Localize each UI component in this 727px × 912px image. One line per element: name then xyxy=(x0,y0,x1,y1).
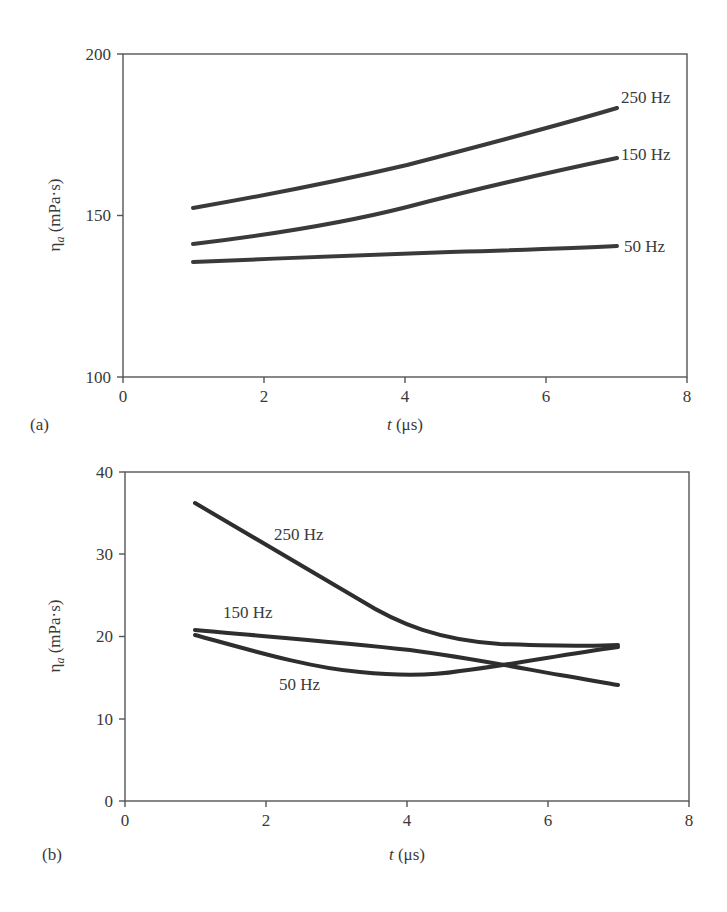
panel-b-ytick-20: 20 xyxy=(96,627,113,646)
panel-b-x-axis-title: t (μs) xyxy=(389,845,425,864)
panel-b-plot-frame xyxy=(125,472,689,801)
figure: 200 150 100 0 2 4 6 8 (a) t (μs) ηa (mPa… xyxy=(0,0,727,912)
panel-a-ytick-200: 200 xyxy=(86,45,112,64)
panel-b-xtick-8: 8 xyxy=(685,811,694,830)
panel-a-x-unit: (μs) xyxy=(392,415,423,434)
panel-b-label-250hz: 250 Hz xyxy=(274,525,324,544)
panel-a-xtick-4: 4 xyxy=(401,387,410,406)
panel-a-y-axis-title: ηa (mPa·s) xyxy=(45,179,67,252)
panel-a-label-150hz: 150 Hz xyxy=(621,145,671,164)
panel-a-label: (a) xyxy=(30,415,49,434)
panel-b-x-ticks xyxy=(125,801,689,807)
panel-b-ytick-0: 0 xyxy=(105,792,114,811)
panel-b-curve-250hz xyxy=(195,503,618,646)
panel-a-x-ticks xyxy=(123,377,687,383)
panel-a-ytick-100: 100 xyxy=(86,368,112,387)
panel-b-y-ticks xyxy=(119,472,125,801)
panel-b: 40 30 20 10 0 0 2 4 6 8 (b) t (μs) ηa (m… xyxy=(42,463,693,864)
panel-b-label-150hz: 150 Hz xyxy=(223,603,273,622)
panel-b-xtick-4: 4 xyxy=(403,811,412,830)
panel-a-y-ticks xyxy=(117,54,123,377)
panel-a-xtick-8: 8 xyxy=(683,387,692,406)
panel-a-plot-frame xyxy=(123,54,687,377)
panel-b-curve-50hz xyxy=(195,635,618,675)
panel-a-y-var: η xyxy=(45,243,64,252)
panel-a-xtick-0: 0 xyxy=(119,387,128,406)
panel-b-y-unit: (mPa·s) xyxy=(45,600,64,658)
panel-a-x-axis-title: t (μs) xyxy=(387,415,423,434)
panel-b-ytick-40: 40 xyxy=(96,463,113,482)
panel-b-ytick-10: 10 xyxy=(96,710,113,729)
panel-a-curve-50hz xyxy=(193,246,617,262)
panel-b-xtick-0: 0 xyxy=(121,811,130,830)
panel-a-label-250hz: 250 Hz xyxy=(621,88,671,107)
panel-a-label-50hz: 50 Hz xyxy=(624,237,666,256)
panel-b-ytick-30: 30 xyxy=(96,545,113,564)
panel-b-y-axis-title: ηa (mPa·s) xyxy=(45,600,67,673)
panel-a-curve-150hz xyxy=(193,158,617,244)
panel-a-curve-250hz xyxy=(193,108,617,208)
panel-a-xtick-2: 2 xyxy=(260,387,269,406)
panel-a: 200 150 100 0 2 4 6 8 (a) t (μs) ηa (mPa… xyxy=(30,45,691,434)
panel-b-label-50hz: 50 Hz xyxy=(279,675,321,694)
panel-a-y-unit: (mPa·s) xyxy=(45,179,64,237)
panel-a-xtick-6: 6 xyxy=(542,387,551,406)
panel-a-ytick-150: 150 xyxy=(86,206,112,225)
panel-b-x-unit: (μs) xyxy=(394,845,425,864)
panel-b-xtick-2: 2 xyxy=(262,811,271,830)
panel-b-y-var: η xyxy=(45,664,64,673)
panel-b-label: (b) xyxy=(42,845,62,864)
panel-b-xtick-6: 6 xyxy=(544,811,553,830)
